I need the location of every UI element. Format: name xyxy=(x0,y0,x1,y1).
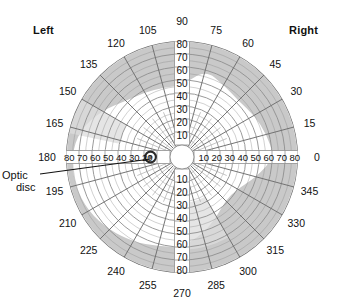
meridian-label-0: 0 xyxy=(314,151,320,163)
meridian-label-60: 60 xyxy=(242,37,254,49)
eccentricity-label-left-50: 50 xyxy=(103,152,114,163)
eccentricity-label-left-80: 80 xyxy=(64,152,75,163)
optic-disc-label-line1: Optic xyxy=(2,169,28,181)
eccentricity-label-down-20: 20 xyxy=(176,186,187,197)
right-eye-label: Right xyxy=(289,24,318,36)
meridian-label-120: 120 xyxy=(107,37,125,49)
meridian-label-135: 135 xyxy=(80,58,98,70)
eccentricity-label-down-80: 80 xyxy=(176,264,187,275)
meridian-label-180: 180 xyxy=(38,151,56,163)
eccentricity-label-up-40: 40 xyxy=(176,91,187,102)
eccentricity-label-up-20: 20 xyxy=(176,117,187,128)
meridian-label-30: 30 xyxy=(290,85,302,97)
meridian-label-210: 210 xyxy=(59,217,77,229)
eccentricity-label-left-60: 60 xyxy=(90,152,101,163)
meridian-label-255: 255 xyxy=(139,279,157,291)
meridian-label-105: 105 xyxy=(139,24,157,36)
eccentricity-label-right-40: 40 xyxy=(238,152,249,163)
eccentricity-label-up-70: 70 xyxy=(176,52,187,63)
meridian-label-315: 315 xyxy=(267,244,285,256)
meridian-label-240: 240 xyxy=(107,265,125,277)
eccentricity-label-up-80: 80 xyxy=(176,39,187,50)
meridian-label-300: 300 xyxy=(239,265,257,277)
meridian-label-285: 285 xyxy=(207,279,225,291)
visual-field-figure: Left Right Optic disc 015304560759010512… xyxy=(0,0,342,302)
optic-disc-label-line2: disc xyxy=(16,181,36,193)
meridian-label-195: 195 xyxy=(46,185,64,197)
meridian-label-15: 15 xyxy=(304,117,316,129)
eccentricity-label-left-30: 30 xyxy=(129,152,140,163)
eccentricity-label-down-70: 70 xyxy=(176,251,187,262)
eccentricity-label-down-10: 10 xyxy=(176,173,187,184)
eccentricity-label-down-60: 60 xyxy=(176,238,187,249)
meridian-label-45: 45 xyxy=(269,58,281,70)
meridian-label-165: 165 xyxy=(46,117,64,129)
eccentricity-label-right-10: 10 xyxy=(199,152,210,163)
meridian-label-330: 330 xyxy=(288,217,306,229)
eccentricity-label-up-60: 60 xyxy=(176,65,187,76)
eccentricity-label-down-30: 30 xyxy=(176,199,187,210)
meridian-label-270: 270 xyxy=(173,287,191,299)
meridian-label-90: 90 xyxy=(176,15,188,27)
eccentricity-label-right-80: 80 xyxy=(290,152,301,163)
eccentricity-label-up-10: 10 xyxy=(176,130,187,141)
eccentricity-label-right-50: 50 xyxy=(251,152,262,163)
meridian-label-345: 345 xyxy=(301,185,319,197)
eccentricity-label-up-30: 30 xyxy=(176,104,187,115)
eccentricity-label-left-70: 70 xyxy=(77,152,88,163)
eccentricity-label-up-50: 50 xyxy=(176,78,187,89)
eccentricity-label-right-60: 60 xyxy=(264,152,275,163)
meridian-label-150: 150 xyxy=(59,85,77,97)
meridian-label-225: 225 xyxy=(80,244,98,256)
eccentricity-label-down-40: 40 xyxy=(176,212,187,223)
eccentricity-label-down-50: 50 xyxy=(176,225,187,236)
left-eye-label: Left xyxy=(33,24,54,36)
eccentricity-label-right-20: 20 xyxy=(212,152,223,163)
meridian-label-75: 75 xyxy=(210,24,222,36)
eccentricity-label-left-20: 20 xyxy=(142,152,153,163)
eccentricity-label-left-40: 40 xyxy=(116,152,127,163)
eccentricity-label-right-70: 70 xyxy=(277,152,288,163)
eccentricity-label-right-30: 30 xyxy=(225,152,236,163)
